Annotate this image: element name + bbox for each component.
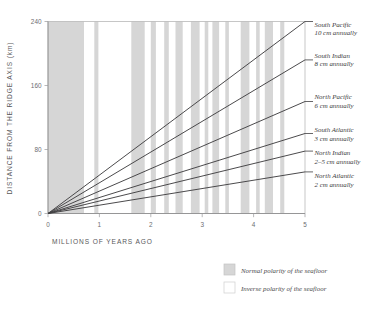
series-label-rate: 2 cm annually	[315, 181, 355, 188]
y-tick-label: 0	[38, 210, 42, 217]
series-label-rate: 6 cm annually	[315, 102, 355, 109]
y-tick-label: 160	[31, 82, 42, 89]
polarity-stripe	[212, 22, 219, 214]
polarity-stripe	[280, 22, 284, 214]
series-label-rate: 8 cm annually	[315, 60, 355, 67]
series-label-name: South Pacific	[315, 21, 352, 28]
x-tick-label: 3	[200, 221, 204, 228]
polarity-stripe	[191, 22, 200, 214]
inverse-polarity-swatch	[224, 282, 235, 293]
x-tick-label: 1	[98, 221, 102, 228]
polarity-stripe	[241, 22, 250, 214]
series-label-name: South Indian	[315, 52, 351, 59]
inverse-polarity-label: Inverse polarity of the seafloor	[240, 285, 327, 292]
x-axis-title: MILLIONS OF YEARS AGO	[52, 238, 153, 245]
seafloor-spreading-chart: 0 80 160 240 0 1 2 3 4 5 MILLIONS OF YEA…	[0, 0, 391, 311]
series-label-name: North Indian	[314, 149, 351, 156]
x-tick-label: 2	[149, 221, 153, 228]
x-tick-label: 0	[46, 221, 50, 228]
y-tick-label: 80	[34, 146, 42, 153]
series-label-name: North Atlantic	[314, 172, 355, 179]
series-label-rate: 3 cm annually	[314, 135, 355, 142]
x-tick-label: 5	[303, 221, 307, 228]
y-axis-title: DISTANCE FROM THE RIDGE AXIS (km)	[6, 42, 14, 195]
polarity-stripe	[151, 22, 156, 214]
polarity-stripe	[256, 22, 260, 214]
normal-polarity-label: Normal polarity of the seafloor	[240, 267, 327, 274]
series-label-name: South Atlantic	[315, 126, 354, 133]
polarity-stripe	[48, 22, 84, 214]
y-tick-label: 240	[31, 18, 42, 25]
normal-polarity-swatch	[224, 264, 235, 275]
polarity-stripe	[131, 22, 144, 214]
series-label-rate: 10 cm annually	[315, 29, 358, 36]
x-tick-label: 4	[252, 221, 256, 228]
series-label-rate: 2–5 cm annually	[315, 158, 362, 165]
series-label-name: North Pacific	[314, 93, 352, 100]
